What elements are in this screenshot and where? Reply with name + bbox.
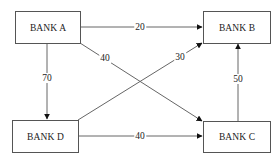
edge-label-c-b: 50 <box>232 74 244 84</box>
node-label: BANK C <box>219 132 255 142</box>
edge-label-d-b: 30 <box>174 52 186 62</box>
edge-label-d-c: 40 <box>134 131 146 141</box>
edge-label-a-d: 70 <box>41 73 53 83</box>
node-label: BANK D <box>27 132 64 142</box>
node-label: BANK B <box>219 23 255 33</box>
node-label: BANK A <box>30 23 66 33</box>
node-bank-a: BANK A <box>15 11 81 44</box>
node-bank-d: BANK D <box>12 120 79 153</box>
node-bank-b: BANK B <box>203 11 271 44</box>
edge-label-a-b: 20 <box>134 22 146 32</box>
node-bank-c: BANK C <box>203 121 271 153</box>
edge-label-a-c: 40 <box>99 53 111 63</box>
